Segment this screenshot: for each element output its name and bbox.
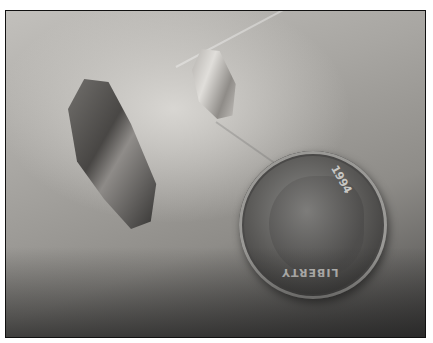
- photo-frame: 1994 LIBERTY: [5, 10, 426, 338]
- large-crystal: [68, 79, 158, 229]
- shadow-overlay: [6, 247, 425, 337]
- coin-date: 1994: [328, 163, 355, 196]
- small-crystal: [192, 49, 238, 119]
